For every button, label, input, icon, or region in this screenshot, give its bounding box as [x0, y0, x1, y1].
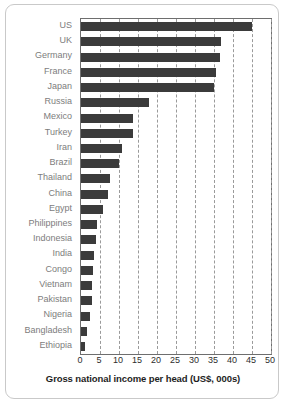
- bar-row: [81, 110, 271, 125]
- y-label-ethiopia: Ethiopia: [39, 338, 72, 353]
- x-tick-15: 15: [132, 355, 142, 365]
- bar-row: [81, 156, 271, 171]
- y-label-vietnam: Vietnam: [39, 277, 72, 292]
- x-tick-50: 50: [265, 355, 275, 365]
- bar-row: [81, 34, 271, 49]
- bar-china[interactable]: [81, 190, 108, 199]
- x-axis-tick-labels: 05101520253035404550: [80, 355, 270, 369]
- x-tick-45: 45: [246, 355, 256, 365]
- bar-japan[interactable]: [81, 83, 214, 92]
- y-label-bangladesh: Bangladesh: [24, 323, 72, 338]
- y-label-congo: Congo: [45, 262, 72, 277]
- bar-mexico[interactable]: [81, 114, 133, 123]
- y-axis-category-labels: USUKGermanyFranceJapanRussiaMexicoTurkey…: [6, 18, 76, 353]
- x-axis-title: Gross national income per head (US$, 000…: [6, 373, 280, 384]
- bar-row: [81, 278, 271, 293]
- y-label-india: India: [52, 246, 72, 261]
- bar-row: [81, 293, 271, 308]
- y-label-brazil: Brazil: [49, 155, 72, 170]
- y-label-france: France: [44, 64, 72, 79]
- bar-row: [81, 49, 271, 64]
- x-tick-25: 25: [170, 355, 180, 365]
- y-label-philippines: Philippines: [28, 216, 72, 231]
- y-label-japan: Japan: [47, 79, 72, 94]
- x-tick-30: 30: [189, 355, 199, 365]
- bar-row: [81, 247, 271, 262]
- chart-card: USUKGermanyFranceJapanRussiaMexicoTurkey…: [5, 4, 279, 399]
- bar-row: [81, 95, 271, 110]
- x-tick-0: 0: [77, 355, 82, 365]
- plot-area: [80, 18, 272, 355]
- x-tick-5: 5: [96, 355, 101, 365]
- x-tick-35: 35: [208, 355, 218, 365]
- bar-iran[interactable]: [81, 144, 122, 153]
- bar-nigeria[interactable]: [81, 312, 90, 321]
- y-label-thailand: Thailand: [37, 170, 72, 185]
- bar-row: [81, 171, 271, 186]
- bar-row: [81, 217, 271, 232]
- bar-us[interactable]: [81, 22, 252, 31]
- bar-row: [81, 187, 271, 202]
- bar-india[interactable]: [81, 251, 94, 260]
- bar-chart: USUKGermanyFranceJapanRussiaMexicoTurkey…: [6, 5, 280, 400]
- x-tick-20: 20: [151, 355, 161, 365]
- bar-bangladesh[interactable]: [81, 327, 87, 336]
- bar-uk[interactable]: [81, 37, 221, 46]
- bar-row: [81, 126, 271, 141]
- bar-philippines[interactable]: [81, 220, 97, 229]
- y-label-uk: UK: [59, 33, 72, 48]
- bar-germany[interactable]: [81, 53, 220, 62]
- y-label-mexico: Mexico: [43, 109, 72, 124]
- bar-indonesia[interactable]: [81, 235, 96, 244]
- y-label-pakistan: Pakistan: [37, 292, 72, 307]
- bar-row: [81, 324, 271, 339]
- bar-thailand[interactable]: [81, 174, 110, 183]
- bar-row: [81, 263, 271, 278]
- bar-brazil[interactable]: [81, 159, 119, 168]
- y-label-turkey: Turkey: [45, 125, 72, 140]
- bar-row: [81, 339, 271, 354]
- bar-vietnam[interactable]: [81, 281, 92, 290]
- bar-row: [81, 141, 271, 156]
- bar-row: [81, 65, 271, 80]
- bars-layer: [81, 19, 271, 354]
- bar-russia[interactable]: [81, 98, 149, 107]
- y-label-us: US: [59, 18, 72, 33]
- bar-row: [81, 80, 271, 95]
- bar-ethiopia[interactable]: [81, 342, 85, 351]
- bar-row: [81, 308, 271, 323]
- y-label-egypt: Egypt: [49, 201, 72, 216]
- x-tick-10: 10: [113, 355, 123, 365]
- bar-turkey[interactable]: [81, 129, 133, 138]
- x-tick-40: 40: [227, 355, 237, 365]
- bar-row: [81, 232, 271, 247]
- y-label-indonesia: Indonesia: [33, 231, 72, 246]
- gridline-50: [271, 19, 272, 354]
- bar-egypt[interactable]: [81, 205, 103, 214]
- y-label-russia: Russia: [44, 94, 72, 109]
- bar-row: [81, 202, 271, 217]
- bar-congo[interactable]: [81, 266, 93, 275]
- y-label-iran: Iran: [56, 140, 72, 155]
- y-label-germany: Germany: [35, 48, 72, 63]
- bar-pakistan[interactable]: [81, 296, 92, 305]
- y-label-china: China: [48, 186, 72, 201]
- bar-france[interactable]: [81, 68, 216, 77]
- y-label-nigeria: Nigeria: [43, 307, 72, 322]
- bar-row: [81, 19, 271, 34]
